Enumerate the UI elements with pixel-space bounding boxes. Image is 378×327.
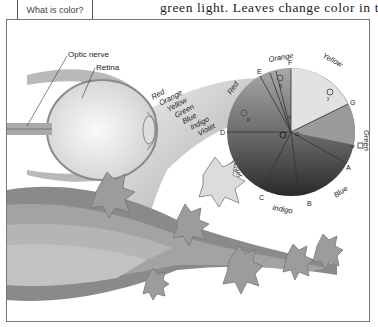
inner-letter-p: p (247, 116, 250, 122)
color-illustration-figure: Optic nerve Retina Red Orange Yellow Gre… (6, 19, 370, 322)
point-e: E (257, 68, 262, 75)
section-label: What is color? (26, 5, 83, 15)
wheel-label-yellow: Yellow (321, 51, 345, 69)
point-b: B (307, 200, 312, 207)
point-c: C (259, 194, 264, 201)
retina-label: Retina (96, 63, 120, 72)
leaves-stream (7, 187, 337, 301)
wheel-label-indigo: Indigo (272, 203, 294, 215)
point-g: G (350, 99, 355, 106)
wheel-label-blue: Blue (332, 184, 349, 200)
illustration-canvas: Optic nerve Retina Red Orange Yellow Gre… (7, 20, 370, 322)
center-letter: O (295, 131, 300, 137)
inner-letter-z: z (288, 114, 291, 120)
point-a: A (346, 164, 351, 171)
body-text-line: green light. Leaves change color in the … (160, 0, 378, 16)
optic-nerve-label: Optic nerve (68, 50, 109, 59)
point-d: D (220, 129, 225, 136)
color-wheel: O y q p z w (227, 68, 363, 196)
inner-letter-w: w (351, 143, 355, 149)
eye-illustration (7, 69, 157, 181)
inner-letter-q: q (279, 82, 282, 88)
wheel-label-green: Green (362, 130, 370, 151)
